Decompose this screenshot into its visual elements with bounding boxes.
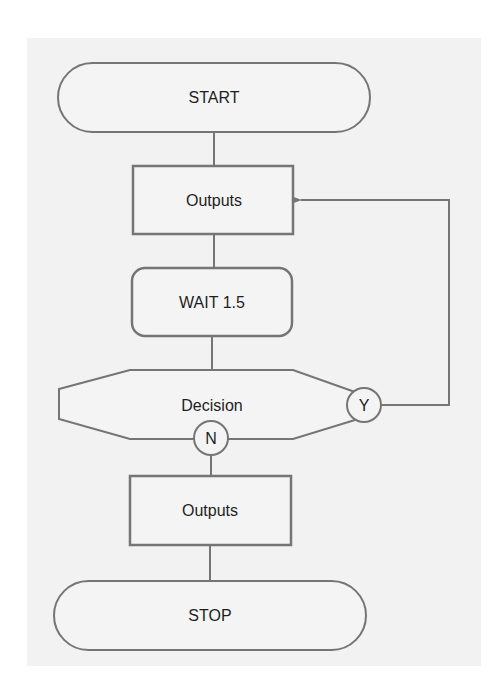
yes-branch-marker: Y <box>347 388 381 422</box>
yes-label: Y <box>359 397 370 414</box>
flowchart-canvas: START Outputs WAIT 1.5 Decision Y N Outp… <box>0 0 499 686</box>
outputs-node-1: Outputs <box>133 166 293 234</box>
decision-label: Decision <box>181 397 242 414</box>
no-branch-marker: N <box>194 421 228 455</box>
outputs-node-2: Outputs <box>130 476 291 545</box>
stop-node: STOP <box>54 581 366 650</box>
outputs-2-label: Outputs <box>182 502 238 519</box>
wait-node: WAIT 1.5 <box>132 268 292 336</box>
stop-label: STOP <box>188 607 231 624</box>
start-label: START <box>189 89 240 106</box>
outputs-1-label: Outputs <box>186 192 242 209</box>
wait-label: WAIT 1.5 <box>179 294 245 311</box>
no-label: N <box>205 430 217 447</box>
start-node: START <box>58 63 370 132</box>
